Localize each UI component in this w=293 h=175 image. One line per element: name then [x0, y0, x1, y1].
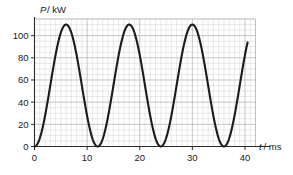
- y-tick-label: 60: [18, 74, 29, 85]
- x-tick-label: 40: [240, 152, 251, 163]
- y-axis-label-unit: / kW: [47, 4, 66, 15]
- x-tick-label: 30: [187, 152, 198, 163]
- y-tick-label: 100: [13, 30, 29, 41]
- chart-svg: 010203040020406080100 P / kW t / ms: [0, 0, 293, 175]
- y-tick-label: 40: [18, 97, 29, 108]
- x-axis-label-unit: / ms: [264, 141, 282, 152]
- x-axis-label-symbol: t: [259, 141, 262, 152]
- y-tick-label: 0: [23, 141, 28, 152]
- tick-marks: [31, 36, 245, 150]
- y-axis-label-symbol: P: [40, 4, 47, 15]
- y-tick-label: 80: [18, 52, 29, 63]
- x-tick-label: 20: [134, 152, 145, 163]
- y-tick-label: 20: [18, 119, 29, 130]
- x-tick-label: 10: [82, 152, 93, 163]
- x-tick-label: 0: [32, 152, 37, 163]
- power-time-chart: 010203040020406080100 P / kW t / ms: [0, 0, 293, 175]
